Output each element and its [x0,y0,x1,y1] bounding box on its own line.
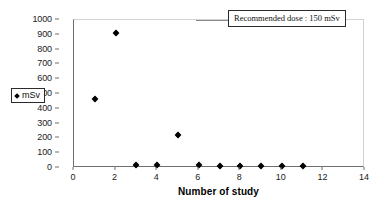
y-tick-mark [55,167,59,168]
x-axis-title: Number of study [73,186,364,197]
y-tick-mark [55,33,59,34]
y-tick-label: 300 [37,118,52,127]
x-tick-mark [280,167,281,170]
y-tick-label: 200 [37,133,52,142]
x-axis: 02468101214 [73,167,364,187]
x-tick-label: 12 [317,173,327,182]
x-tick-label: 4 [154,173,159,182]
y-tick-mark [55,152,59,153]
x-tick-mark [73,167,74,170]
scatter-chart: 01002003004005006007008009001000 0246810… [0,0,389,216]
data-point [112,29,119,36]
x-tick-label: 10 [276,173,286,182]
y-tick-label: 400 [37,103,52,112]
data-point [174,131,181,138]
x-tick-label: 6 [195,173,200,182]
x-tick-label: 0 [70,173,75,182]
y-tick-label: 0 [47,163,52,172]
x-tick-label: 2 [112,173,117,182]
plot-area [73,19,364,167]
y-tick-mark [55,63,59,64]
x-tick-mark [239,167,240,170]
x-tick-label: 8 [237,173,242,182]
y-tick-mark [55,48,59,49]
x-tick-mark [364,167,365,170]
diamond-marker-icon [14,93,20,99]
y-tick-label: 700 [37,59,52,68]
y-tick-mark [55,107,59,108]
y-tick-mark [55,78,59,79]
data-point [91,96,98,103]
annotation-leader-line [196,20,229,21]
x-tick-mark [156,167,157,170]
y-tick-mark [55,137,59,138]
x-tick-mark [197,167,198,170]
y-tick-mark [55,19,59,20]
y-tick-mark [55,122,59,123]
x-tick-mark [114,167,115,170]
legend: mSv [11,88,45,103]
y-tick-mark [55,93,59,94]
legend-item-label: mSv [22,91,40,100]
y-tick-label: 900 [37,29,52,38]
y-tick-label: 800 [37,44,52,53]
y-tick-label: 600 [37,74,52,83]
x-tick-label: 14 [359,173,369,182]
y-tick-label: 100 [37,148,52,157]
recommended-dose-annotation: Recommended dose : 150 mSv [228,10,346,27]
y-tick-label: 1000 [32,15,52,24]
x-tick-mark [322,167,323,170]
